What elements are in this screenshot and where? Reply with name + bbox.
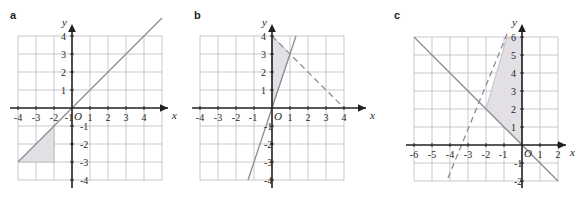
- figure-container: a: [0, 0, 579, 199]
- y-tick-label-a-0: 4: [61, 31, 66, 42]
- x-tick-label-b-5: 2: [306, 112, 311, 123]
- y-tick-label-a-1: 3: [61, 49, 66, 60]
- x-tick-label-b-7: 4: [342, 112, 347, 123]
- x-tick-label-b-1: -3: [214, 112, 222, 123]
- origin-label-a: O: [74, 110, 82, 122]
- x-tick-label-c-3: -3: [464, 149, 472, 160]
- x-tick-label-c-5: -1: [499, 149, 507, 160]
- y-tick-label-c-1: 5: [511, 50, 516, 61]
- y-tick-label-a-3: 1: [61, 85, 66, 96]
- x-tick-label-a-5: 2: [106, 112, 111, 123]
- x-tick-label-b-4: 1: [288, 112, 293, 123]
- x-tick-label-b-0: -4: [196, 112, 204, 123]
- y-axis-label-a: y: [61, 16, 67, 28]
- y-tick-label-a-6: -3: [80, 157, 88, 168]
- y-tick-label-a-5: -2: [80, 139, 88, 150]
- y-axis-arrow-b: [268, 24, 276, 32]
- x-axis-label-c: x: [569, 146, 575, 158]
- y-tick-label-c-4: 2: [511, 104, 516, 115]
- panel-b-plot: -4 -3 -2 -1 1 2 3 4 4 3 2 1 -1 -2 -3 -4 …: [186, 0, 384, 199]
- panel-b: b: [186, 0, 384, 199]
- y-tick-label-b-3: 1: [261, 85, 266, 96]
- x-axis-arrow-b: [358, 104, 366, 112]
- y-tick-label-b-6: -3: [264, 157, 272, 168]
- y-tick-label-c-6: -1: [514, 158, 522, 169]
- x-tick-label-a-6: 3: [124, 112, 129, 123]
- y-axis-label-b: y: [261, 16, 267, 28]
- x-tick-label-c-4: -2: [482, 149, 490, 160]
- y-tick-label-a-2: 2: [61, 67, 66, 78]
- x-axis-label-b: x: [369, 109, 375, 121]
- y-tick-label-a-7: -4: [80, 175, 88, 186]
- y-axis-arrow-a: [68, 24, 76, 32]
- x-tick-label-c-2: -4: [446, 149, 454, 160]
- y-tick-label-b-7: -4: [264, 175, 272, 186]
- y-tick-label-a-4: -1: [80, 121, 88, 132]
- y-tick-label-b-4: -1: [264, 121, 272, 132]
- x-tick-label-c-6: 1: [538, 149, 543, 160]
- x-tick-label-b-3: -1: [249, 112, 257, 123]
- y-tick-label-c-7: -2: [514, 176, 522, 187]
- y-axis-label-c: y: [511, 16, 517, 28]
- x-tick-label-c-7: 2: [556, 149, 561, 160]
- panel-c-plot: -6 -5 -4 -3 -2 -1 1 2 6 5 4 3 2 1 -1 -2 …: [384, 0, 579, 199]
- y-tick-label-b-0: 4: [261, 31, 266, 42]
- origin-label-c: O: [524, 147, 532, 159]
- x-tick-label-c-0: -6: [410, 149, 418, 160]
- x-tick-label-b-2: -2: [232, 112, 240, 123]
- origin-label-b: O: [274, 110, 282, 122]
- panel-a-plot: -4 -3 -2 -1 1 2 3 4 4 3 2 1 -1 -2 -3 -4 …: [0, 0, 186, 199]
- x-tick-label-a-3: -1: [65, 112, 73, 123]
- y-tick-label-b-2: 2: [261, 67, 266, 78]
- y-tick-label-c-2: 4: [511, 68, 516, 79]
- panel-c: c: [384, 0, 579, 199]
- y-axis-arrow-c: [518, 24, 526, 32]
- panel-a: a: [0, 0, 186, 199]
- x-tick-label-a-7: 4: [142, 112, 147, 123]
- x-tick-label-a-2: -2: [50, 112, 58, 123]
- x-tick-label-c-1: -5: [428, 149, 436, 160]
- x-axis-arrow-a: [160, 104, 168, 112]
- x-tick-label-b-6: 3: [324, 112, 329, 123]
- y-tick-label-c-5: 1: [511, 122, 516, 133]
- x-tick-label-a-1: -3: [32, 112, 40, 123]
- x-axis-label-a: x: [171, 109, 177, 121]
- y-tick-label-b-1: 3: [261, 49, 266, 60]
- x-tick-label-a-0: -4: [14, 112, 22, 123]
- y-tick-label-b-5: -2: [264, 139, 272, 150]
- x-axis-arrow-c: [558, 141, 566, 149]
- y-tick-label-c-3: 3: [511, 86, 516, 97]
- y-tick-label-c-0: 6: [511, 32, 516, 43]
